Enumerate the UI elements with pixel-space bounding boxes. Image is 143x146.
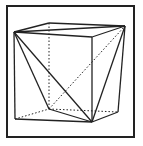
edge-DA [14, 32, 92, 37]
edge-AE [14, 32, 15, 119]
edge-EF [15, 109, 49, 119]
edge-BC [49, 23, 125, 26]
edge-CG [92, 26, 125, 122]
edge-FC [49, 26, 125, 109]
edge-AG [14, 32, 92, 122]
edge-CH [118, 26, 125, 112]
edge-AF [14, 32, 49, 109]
solid-edges [14, 23, 125, 122]
cube-diagram [0, 0, 143, 146]
edge-EG [15, 119, 92, 122]
edge-HG [92, 112, 118, 122]
